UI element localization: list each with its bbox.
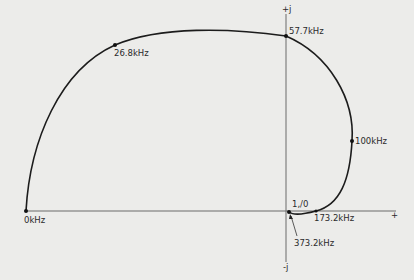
label-57-7khz: 57.7kHz xyxy=(289,26,324,36)
point-origin xyxy=(287,210,291,214)
arrowhead-icon xyxy=(289,214,293,219)
real-axis-plus-label: + xyxy=(391,210,398,220)
label-origin: 1,/0 xyxy=(292,199,308,209)
label-0khz: 0kHz xyxy=(24,215,46,225)
label-373-2khz: 373.2kHz xyxy=(294,238,335,248)
imag-axis-minus-label: -j xyxy=(283,262,288,272)
label-26-8khz: 26.8kHz xyxy=(114,48,149,58)
locus-curve xyxy=(26,30,352,214)
point-26-8khz xyxy=(113,43,117,47)
nyquist-plot: + +j -j 0kHz 26.8kHz 57.7kHz 100kHz 173.… xyxy=(0,0,414,280)
label-173-2khz: 173.2kHz xyxy=(314,213,355,223)
label-100khz: 100kHz xyxy=(355,136,388,146)
point-100khz xyxy=(350,139,354,143)
imag-axis-plus-label: +j xyxy=(282,4,291,14)
point-0khz xyxy=(24,209,28,213)
point-57-7khz xyxy=(284,34,288,38)
